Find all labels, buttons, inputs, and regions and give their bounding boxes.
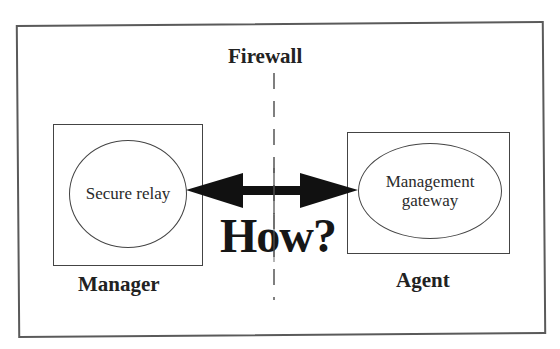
- agent-label: Agent: [396, 268, 450, 293]
- management-gateway-label-line1: Management: [386, 172, 475, 191]
- secure-relay-label: Secure relay: [86, 184, 170, 204]
- firewall-diagram: Firewall Secure relay Manager Management…: [0, 0, 560, 349]
- secure-relay-node: Secure relay: [69, 140, 187, 248]
- manager-label: Manager: [78, 272, 160, 297]
- management-gateway-node: Management gateway: [358, 143, 502, 239]
- management-gateway-label-line2: gateway: [402, 191, 459, 210]
- how-question-label: How?: [220, 208, 336, 263]
- firewall-label: Firewall: [228, 44, 302, 69]
